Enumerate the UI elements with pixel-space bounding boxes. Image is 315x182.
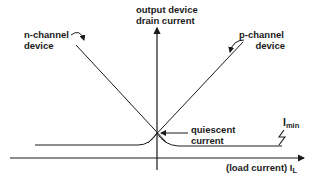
- imin-curve: [35, 133, 282, 146]
- n-channel-label-line1: n-channel: [24, 29, 69, 40]
- x-axis-label: (load current) IL: [226, 162, 297, 174]
- x-axis-label-text: (load current) I: [226, 162, 293, 173]
- y-axis-label-line2: drain current: [136, 15, 198, 26]
- x-axis-subscript: L: [293, 166, 298, 175]
- p-channel-label-line1: p-channel: [239, 29, 285, 40]
- n-channel-line: [76, 45, 166, 142]
- n-channel-pointer-icon: [71, 32, 84, 40]
- p-channel-label-line2: device: [239, 40, 285, 51]
- n-channel-label: n-channel device: [24, 29, 69, 51]
- quiescent-label: quiescent current: [191, 124, 235, 146]
- p-channel-label: p-channel device: [239, 29, 285, 51]
- quiescent-label-line2: current: [191, 135, 235, 146]
- y-axis-label-line1: output device: [136, 4, 198, 15]
- n-channel-label-line2: device: [24, 40, 69, 51]
- quiescent-label-line1: quiescent: [191, 124, 235, 135]
- imin-zigzag-icon: [279, 130, 285, 145]
- imin-label: Imin: [283, 117, 299, 129]
- imin-subscript: min: [286, 121, 299, 130]
- y-axis-label: output device drain current: [136, 4, 198, 26]
- diagram-canvas: [0, 0, 315, 182]
